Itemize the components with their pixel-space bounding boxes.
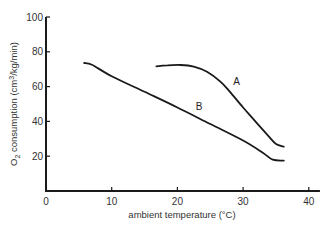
x-tick-label: 30 bbox=[238, 196, 250, 207]
y-tick-label: 20 bbox=[32, 151, 44, 162]
x-tick-label: 40 bbox=[303, 196, 315, 207]
axes: 010203040 20406080100 bbox=[26, 12, 320, 208]
y-axis-title-o: O bbox=[8, 159, 19, 166]
x-axis-title: ambient temperature (°C) bbox=[128, 209, 235, 220]
y-tick-label: 100 bbox=[26, 12, 43, 23]
x-tick-label: 10 bbox=[106, 196, 118, 207]
y-axis-title-end: /kg/min) bbox=[8, 42, 19, 76]
x-tick-label: 0 bbox=[43, 196, 49, 207]
y-axis-title-mid: consumption (cm bbox=[8, 80, 19, 155]
y-axis-title: O2 consumption (cm3/kg/min) bbox=[8, 42, 21, 166]
curve-label-a: A bbox=[233, 76, 240, 87]
y-tick-label: 40 bbox=[32, 116, 44, 127]
y-tick-label: 80 bbox=[32, 46, 44, 57]
curve-b bbox=[84, 63, 284, 161]
curves: AB bbox=[84, 63, 284, 161]
x-tick-label: 20 bbox=[172, 196, 184, 207]
curve-label-b: B bbox=[196, 101, 203, 112]
chart-canvas: 010203040 20406080100 AB ambient tempera… bbox=[0, 0, 331, 233]
y-tick-label: 60 bbox=[32, 81, 44, 92]
